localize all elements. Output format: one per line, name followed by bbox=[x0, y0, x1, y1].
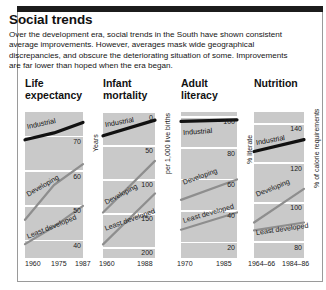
chart-title: Adult literacy bbox=[181, 78, 218, 101]
chart-title: Infant mortality bbox=[103, 78, 147, 101]
y-tick-label: 40 bbox=[207, 212, 235, 219]
y-axis-title: % literate bbox=[246, 135, 253, 164]
chart-title: Life expectancy bbox=[25, 78, 82, 101]
y-axis-title: % of calorie requirements bbox=[313, 109, 320, 188]
x-tick-label: 1960 bbox=[99, 260, 115, 267]
y-tick-label: 70 bbox=[53, 138, 81, 145]
x-tick-label: 1975 bbox=[51, 260, 67, 267]
chart-1: Life expectancyIndustrialDevelopingLeast… bbox=[25, 78, 113, 270]
y-tick-label: 60 bbox=[207, 181, 235, 188]
x-tick-label: 1964–66 bbox=[248, 260, 275, 267]
y-tick-label: 50 bbox=[53, 207, 81, 214]
plot-area: IndustrialDevelopingLeast developed bbox=[25, 112, 83, 258]
page-title: Social trends bbox=[9, 12, 92, 27]
x-tick-label: 1984–86 bbox=[282, 260, 309, 267]
chart-title: Nutrition bbox=[254, 78, 298, 90]
y-tick-label: 20 bbox=[207, 244, 235, 251]
intro-paragraph: Over the development era, social trends … bbox=[9, 30, 299, 72]
x-tick-label: 1988 bbox=[137, 260, 153, 267]
y-tick-label: 100 bbox=[207, 118, 235, 125]
chart-2: Infant mortalityIndustrialDevelopingLeas… bbox=[103, 78, 185, 270]
chart-4: NutritionIndustrialDevelopingLeast devel… bbox=[254, 78, 326, 270]
y-tick-label: 120 bbox=[274, 165, 302, 172]
y-tick-label: 80 bbox=[207, 150, 235, 157]
y-axis-title: per 1,000 live births bbox=[164, 113, 171, 174]
x-tick-label: 1985 bbox=[216, 260, 232, 267]
y-tick-label: 40 bbox=[53, 242, 81, 249]
y-tick-label: 0 bbox=[125, 114, 153, 121]
x-tick-label: 1987 bbox=[75, 260, 91, 267]
y-tick-label: 100 bbox=[125, 181, 153, 188]
plot-area: IndustrialDevelopingLeast developed bbox=[254, 112, 304, 258]
y-tick-label: 200 bbox=[125, 249, 153, 256]
x-tick-label: 1970 bbox=[177, 260, 193, 267]
y-tick-label: 80 bbox=[274, 244, 302, 251]
figure-social-trends: Human Development Report 1990, Oxford Un… bbox=[0, 0, 326, 290]
y-tick-label: 100 bbox=[274, 204, 302, 211]
y-tick-label: 50 bbox=[125, 147, 153, 154]
y-tick-label: 60 bbox=[53, 173, 81, 180]
y-tick-label: 150 bbox=[125, 215, 153, 222]
y-tick-label: 140 bbox=[274, 125, 302, 132]
y-axis-title: Years bbox=[92, 134, 99, 152]
x-tick-label: 1960 bbox=[25, 260, 41, 267]
